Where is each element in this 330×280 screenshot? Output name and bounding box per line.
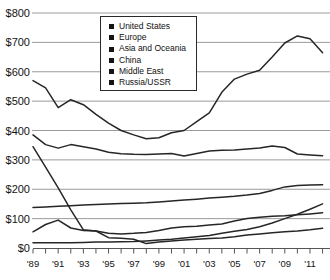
x-axis-label-1995: '95 (102, 258, 114, 269)
legend-label: Middle East (119, 66, 163, 77)
x-axis-label-2011: '11 (304, 258, 316, 269)
y-axis-label-700: $700 (6, 36, 30, 48)
x-axis-label-1989: '89 (27, 258, 39, 269)
y-axis-label-600: $600 (6, 66, 30, 78)
y-axis-label-500: $500 (6, 95, 30, 107)
legend-marker-icon (109, 24, 114, 29)
legend-label: Russia/USSR (119, 77, 171, 88)
legend-marker-icon (109, 47, 114, 52)
y-axis-label-300: $300 (6, 154, 30, 166)
x-axis-label-2003: '03 (203, 258, 215, 269)
legend-item-europe: Europe (109, 32, 194, 43)
legend-label: China (119, 55, 141, 66)
legend-label: Asia and Oceania (119, 43, 186, 54)
legend-item-asia-and-oceania: Asia and Oceania (109, 43, 194, 54)
series-line-china (33, 204, 323, 243)
x-axis-label-1997: '97 (128, 258, 140, 269)
legend-item-china: China (109, 55, 194, 66)
y-axis-label-0: $0 (18, 242, 30, 254)
x-axis-label-2007: '07 (253, 258, 265, 269)
y-axis-label-100: $100 (6, 213, 30, 225)
legend-item-united-states: United States (109, 21, 194, 32)
legend-marker-icon (109, 80, 114, 85)
legend-item-russia-ussr: Russia/USSR (109, 77, 194, 88)
y-axis-label-400: $400 (6, 125, 30, 137)
legend-label: United States (119, 21, 170, 32)
legend: United StatesEuropeAsia and OceaniaChina… (100, 16, 197, 91)
series-line-europe (33, 135, 323, 156)
legend-marker-icon (109, 58, 114, 63)
x-axis-label-1999: '99 (153, 258, 165, 269)
x-axis-label-2005: '05 (228, 258, 240, 269)
series-line-asia-and-oceania (33, 185, 323, 208)
x-axis-label-2009: '09 (279, 258, 291, 269)
legend-marker-icon (109, 69, 114, 74)
chart-figure: $800$700$600$500$400$300$200$100$0'89'91… (0, 0, 330, 280)
y-axis-label-800: $800 (6, 7, 30, 19)
x-axis-label-2001: '01 (178, 258, 190, 269)
x-axis-label-1993: '93 (77, 258, 89, 269)
legend-item-middle-east: Middle East (109, 66, 194, 77)
legend-label: Europe (119, 32, 146, 43)
legend-marker-icon (109, 35, 114, 40)
x-axis-label-1991: '91 (52, 258, 64, 269)
series-line-middle-east (33, 213, 323, 234)
y-axis-label-200: $200 (6, 183, 30, 195)
